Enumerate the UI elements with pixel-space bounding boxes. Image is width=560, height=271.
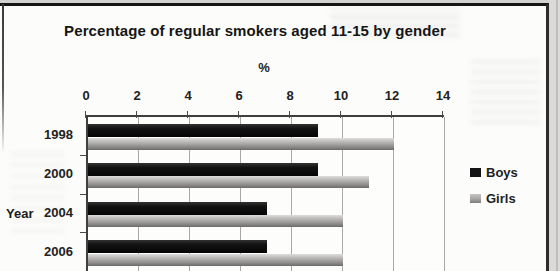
bar-girls-2004 (88, 215, 343, 227)
legend-swatch-boys-icon (470, 168, 481, 177)
year-label-1998: 1998 (28, 126, 73, 144)
page-gutter (549, 0, 560, 271)
plot-area (86, 115, 444, 271)
legend-label-boys: Boys (486, 165, 518, 180)
x-tick-label-10: 10 (326, 88, 356, 103)
year-label-2004: 2004 (28, 204, 73, 222)
bar-boys-2004 (88, 202, 267, 215)
x-tick-label-14: 14 (428, 88, 458, 103)
chart-title: Percentage of regular smokers aged 11-15… (60, 22, 450, 39)
legend-swatch-girls-icon (470, 194, 481, 203)
y-axis-tick-3 (80, 232, 86, 233)
x-tick-label-4: 4 (173, 88, 203, 103)
legend: Boys Girls (470, 163, 518, 215)
legend-label-girls: Girls (486, 191, 516, 206)
bar-boys-2000 (88, 163, 318, 176)
figure-border-top (0, 3, 551, 6)
bar-girls-1998 (88, 138, 394, 150)
x-axis-tick-12 (391, 111, 392, 118)
x-axis-tick-10 (340, 111, 341, 118)
x-axis-tick-4 (187, 111, 188, 118)
x-axis-tick-14 (442, 111, 443, 118)
x-axis-tick-8 (289, 111, 290, 118)
x-axis-label: % (234, 60, 294, 75)
y-axis-tick-2 (80, 194, 86, 195)
year-label-2006: 2006 (28, 243, 73, 261)
x-tick-label-2: 2 (122, 88, 152, 103)
gridline-14 (444, 117, 445, 271)
page-edge (556, 0, 558, 271)
year-label-2000: 2000 (28, 165, 73, 183)
bar-boys-1998 (88, 124, 318, 137)
figure-border-left (2, 4, 4, 154)
x-tick-label-12: 12 (377, 88, 407, 103)
x-axis-tick-2 (136, 111, 137, 118)
bar-girls-2000 (88, 176, 369, 188)
x-tick-label-6: 6 (224, 88, 254, 103)
bar-boys-2006 (88, 240, 267, 253)
legend-item-girls: Girls (470, 189, 518, 207)
legend-item-boys: Boys (470, 163, 518, 181)
x-axis-tick-6 (238, 111, 239, 118)
x-tick-label-0: 0 (71, 88, 101, 103)
bar-girls-2006 (88, 254, 343, 266)
y-axis-tick-1 (80, 155, 86, 156)
x-tick-label-8: 8 (275, 88, 305, 103)
x-axis-tick-0 (85, 111, 86, 118)
